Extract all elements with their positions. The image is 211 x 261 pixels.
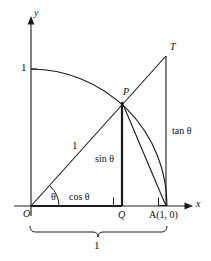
y-axis-label: y	[34, 8, 38, 18]
point-label-a: A(1, 0)	[149, 210, 178, 220]
x-axis-arrowhead	[185, 203, 194, 210]
chord-p-to-a	[122, 102, 166, 206]
ray-o-to-t	[31, 56, 166, 206]
brace-length-label: 1	[94, 240, 100, 251]
point-label-t: T	[170, 42, 176, 52]
x-axis-label: x	[196, 199, 200, 209]
cos-label: cos θ	[69, 192, 90, 202]
point-label-q: Q	[118, 210, 125, 220]
angle-theta-label: θ	[51, 192, 56, 202]
sin-label: sin θ	[95, 154, 114, 164]
point-label-origin: O	[23, 209, 30, 219]
tan-label: tan θ	[172, 126, 192, 136]
point-label-p: P	[123, 87, 129, 97]
right-angle-marker-q	[114, 198, 122, 206]
trig-unit-circle-figure: y x 1 O P Q A(1, 0) T θ 1 cos θ sin θ ta…	[0, 0, 211, 261]
y-axis-tick-label-one: 1	[21, 62, 27, 73]
unit-circle-arc	[31, 69, 167, 206]
measure-brace-unit	[30, 226, 167, 237]
radius-length-label: 1	[72, 140, 78, 151]
